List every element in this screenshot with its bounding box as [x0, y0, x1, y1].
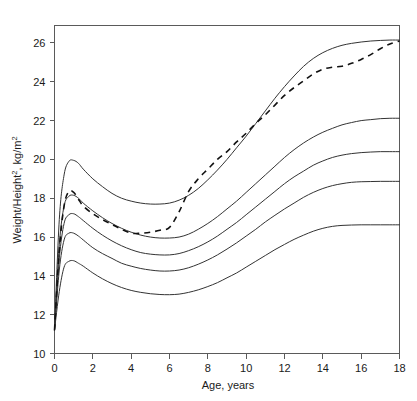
x-tick-label: 2 — [90, 362, 96, 374]
percentile-curve — [55, 225, 400, 330]
bmi-for-age-chart-figure: 101214161820222426 024681012141618 Weigh… — [0, 0, 417, 401]
x-tick-label: 6 — [166, 362, 172, 374]
y-axis-title-base: Weight/Height — [11, 175, 23, 244]
percentile-curve — [55, 152, 400, 331]
y-axis-title-sup-2: 2 — [10, 136, 19, 140]
y-axis-ticks: 101214161820222426 — [33, 37, 54, 360]
percentile-curve — [55, 40, 400, 330]
percentile-curve — [55, 118, 400, 330]
x-tick-label: 4 — [128, 362, 134, 374]
percentile-curve — [55, 181, 400, 330]
y-tick-label: 14 — [33, 270, 45, 282]
y-tick-label: 26 — [33, 37, 45, 49]
subject-curve — [55, 41, 400, 330]
x-tick-label: 10 — [240, 362, 252, 374]
y-tick-label: 12 — [33, 309, 45, 321]
chart-canvas: 101214161820222426 024681012141618 Weigh… — [0, 0, 417, 401]
y-tick-label: 20 — [33, 153, 45, 165]
data-curves — [55, 40, 400, 330]
y-axis-title-mid: , kg/m — [11, 141, 23, 171]
x-tick-label: 14 — [317, 362, 329, 374]
x-axis-title: Age, years — [202, 379, 255, 391]
svg-text:Weight/Height2, kg/m2: Weight/Height2, kg/m2 — [10, 136, 23, 243]
x-tick-label: 0 — [51, 362, 57, 374]
x-tick-label: 16 — [355, 362, 367, 374]
x-tick-label: 8 — [205, 362, 211, 374]
y-axis-title: Weight/Height2, kg/m2 — [10, 136, 23, 243]
y-tick-label: 24 — [33, 76, 45, 88]
y-tick-label: 22 — [33, 115, 45, 127]
y-tick-label: 18 — [33, 192, 45, 204]
y-tick-label: 16 — [33, 231, 45, 243]
x-tick-label: 18 — [393, 362, 405, 374]
x-axis-ticks: 024681012141618 — [51, 354, 405, 374]
x-tick-label: 12 — [278, 362, 290, 374]
y-tick-label: 10 — [33, 348, 45, 360]
